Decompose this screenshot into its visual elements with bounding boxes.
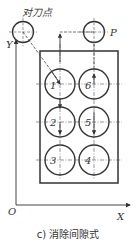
origin-label: O (8, 206, 16, 217)
x-axis-label: X (116, 211, 125, 222)
hole-label-3: 3 (50, 155, 56, 166)
hole-label-6: 6 (85, 80, 92, 91)
point-p-label: P (109, 27, 117, 38)
hole-grid (36, 44, 122, 180)
hole-label-2: 2 (49, 117, 56, 128)
y-axis-label: Y (6, 39, 14, 50)
tool-setting-point-label: 对刀点 (22, 7, 53, 18)
hole-label-1: 1 (50, 80, 56, 91)
coordinate-axes (16, 40, 130, 205)
hole-label-5: 5 (85, 117, 91, 128)
figure-caption: c) 消除间隙式 (37, 228, 100, 240)
hole-label-4: 4 (84, 155, 91, 166)
hole-machining-path-diagram: 对刀点 P Y X O 1 2 3 (0, 0, 137, 243)
